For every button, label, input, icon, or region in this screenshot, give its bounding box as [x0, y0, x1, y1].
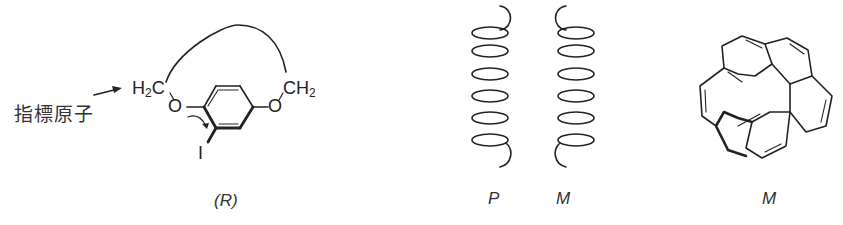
left-ch2-group: H2C	[132, 78, 165, 100]
ansa-bridge	[166, 25, 286, 82]
label-p: P	[488, 189, 499, 209]
oxygen-left: O	[168, 96, 182, 117]
helicene	[700, 36, 832, 158]
oxygen-right: O	[268, 96, 282, 117]
helix-p	[472, 6, 511, 167]
indicator-atom-annotation: 指標原子	[14, 99, 94, 126]
label-m-helix: M	[556, 189, 570, 209]
iodine-atom: I	[198, 143, 203, 164]
label-r: (R)	[214, 191, 238, 211]
right-ch2-group: CH2	[283, 78, 316, 100]
helix-m	[555, 6, 594, 167]
diagram-canvas	[0, 0, 843, 225]
benzene-ring	[204, 86, 253, 128]
arrow-head	[112, 86, 122, 93]
label-m-helicene: M	[762, 189, 776, 209]
